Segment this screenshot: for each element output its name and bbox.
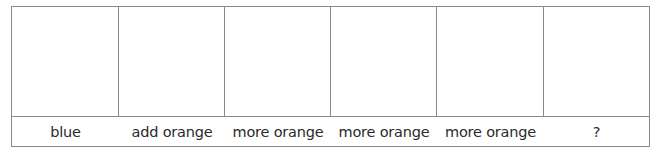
column-label-6: ? [544, 117, 649, 147]
column-label-3: more orange [225, 117, 331, 147]
color-box-6 [544, 7, 649, 117]
color-box-2 [119, 7, 225, 117]
label-row: blue add orange more orange more orange … [12, 117, 649, 147]
column-label-5: more orange [437, 117, 544, 147]
color-mixing-table: blue add orange more orange more orange … [11, 6, 650, 147]
column-label-2: add orange [119, 117, 225, 147]
color-box-5 [437, 7, 544, 117]
color-box-3 [225, 7, 331, 117]
column-label-4: more orange [331, 117, 437, 147]
column-label-1: blue [12, 117, 119, 147]
color-box-1 [12, 7, 119, 117]
color-box-4 [331, 7, 437, 117]
